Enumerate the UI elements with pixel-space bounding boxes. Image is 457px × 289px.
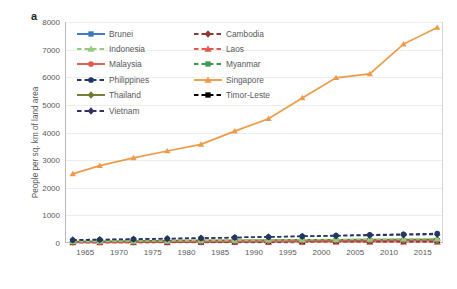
legend-label: Cambodia (223, 29, 264, 39)
x-tick-label: 1980 (178, 248, 196, 257)
legend-key-square-icon (76, 28, 106, 40)
legend-key-square-icon (193, 58, 223, 70)
legend-key-triangle-icon (76, 43, 106, 55)
legend-item-laos[interactable]: Laos (193, 41, 316, 56)
y-axis-title: People per sq. km of land area (31, 43, 40, 243)
legend-item-vietnam[interactable]: Vietnam (76, 103, 193, 118)
panel-letter: a (31, 10, 37, 22)
y-tick-label: 3000 (22, 156, 60, 165)
x-tick-label: 1975 (144, 248, 162, 257)
y-tick-label: 4000 (22, 128, 60, 137)
x-tick-label: 2015 (414, 248, 432, 257)
legend-label: Malaysia (106, 59, 142, 69)
y-tick-label: 6000 (22, 73, 60, 82)
legend-key-diamond-icon (76, 89, 106, 101)
legend-key-circle-icon (76, 58, 106, 70)
legend-key-diamond-icon (193, 28, 223, 40)
x-tick-label: 1995 (279, 248, 297, 257)
x-tick-label: 2000 (313, 248, 331, 257)
y-tick-label: 5000 (22, 100, 60, 109)
x-tick-label: 1985 (211, 248, 229, 257)
x-tick-label: 1965 (76, 248, 94, 257)
legend-item-timor-leste[interactable]: Timor-Leste (193, 88, 316, 103)
legend-label: Singapore (223, 75, 264, 85)
figure-panel: a People per sq. km of land area 0100020… (0, 0, 457, 289)
legend-label: Timor-Leste (223, 90, 270, 100)
x-tick-label: 1990 (245, 248, 263, 257)
legend-item-malaysia[interactable]: Malaysia (76, 57, 193, 72)
legend-label: Brunei (106, 29, 133, 39)
y-tick-label: 2000 (22, 183, 60, 192)
legend-label: Thailand (106, 90, 141, 100)
legend-label: Vietnam (106, 106, 139, 116)
legend-item-singapore[interactable]: Singapore (193, 72, 316, 87)
x-tick-label: 2005 (346, 248, 364, 257)
y-tick-label: 1000 (22, 211, 60, 220)
legend-label: Myanmar (223, 59, 261, 69)
legend-item-cambodia[interactable]: Cambodia (193, 26, 316, 41)
legend-item-brunei[interactable]: Brunei (76, 26, 193, 41)
legend-key-square-icon (193, 89, 223, 101)
y-tick-label: 0 (22, 239, 60, 248)
x-tick-label: 1970 (110, 248, 128, 257)
legend: BruneiCambodiaIndonesiaLaosMalaysiaMyanm… (76, 26, 316, 118)
x-tick-label: 2010 (380, 248, 398, 257)
legend-item-philippines[interactable]: Philippines (76, 72, 193, 87)
legend-label: Philippines (106, 75, 149, 85)
legend-label: Laos (223, 44, 244, 54)
legend-item-thailand[interactable]: Thailand (76, 88, 193, 103)
legend-label: Indonesia (106, 44, 145, 54)
y-tick-label: 7000 (22, 45, 60, 54)
legend-key-triangle-icon (193, 74, 223, 86)
legend-key-triangle-icon (193, 43, 223, 55)
legend-item-indonesia[interactable]: Indonesia (76, 41, 193, 56)
legend-item-myanmar[interactable]: Myanmar (193, 57, 316, 72)
legend-key-diamond-icon (76, 105, 106, 117)
legend-key-circle-icon (76, 74, 106, 86)
y-tick-label: 8000 (22, 18, 60, 27)
